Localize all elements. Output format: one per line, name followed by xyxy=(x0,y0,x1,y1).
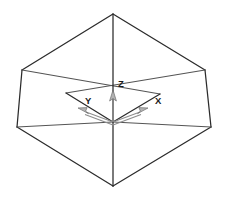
top-rim-edge-back-left xyxy=(22,14,113,70)
inner-wall-edge-front-right xyxy=(113,122,211,127)
base-edge-front-right xyxy=(113,94,160,122)
y-axis-label: Y xyxy=(85,95,92,106)
x-axis-arrowhead-icon xyxy=(138,108,149,114)
front-rim-edge-right xyxy=(113,127,211,186)
side-edge-left-vertical xyxy=(17,70,22,127)
inner-wall-edge-front-left xyxy=(17,122,113,127)
side-edge-right-vertical xyxy=(205,70,211,127)
isometric-box-diagram: Z X Y xyxy=(0,0,226,202)
y-axis-arrowhead-icon xyxy=(78,108,89,114)
inner-wall-edge-back-left xyxy=(22,70,160,94)
front-rim-edge-left xyxy=(17,127,113,186)
z-axis-label: Z xyxy=(118,78,124,89)
top-rim-edge-back-right xyxy=(113,14,205,70)
x-axis-label: X xyxy=(155,95,162,106)
figure-root: Z X Y xyxy=(0,0,226,202)
